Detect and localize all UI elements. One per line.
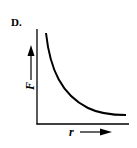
x-axis-arrow-icon (80, 129, 112, 136)
y-axis-arrow-icon (28, 45, 35, 80)
graph: F r (0, 0, 137, 148)
x-axis-label: r (69, 125, 74, 139)
f-vs-r-curve (46, 33, 126, 115)
y-axis-label: F (23, 82, 37, 91)
